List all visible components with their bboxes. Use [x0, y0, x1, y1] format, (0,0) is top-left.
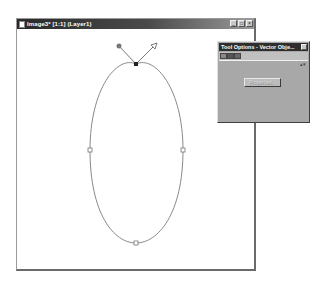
tool-options-close-button[interactable] — [301, 44, 307, 50]
node-bottom[interactable] — [134, 241, 138, 245]
maximize-button[interactable]: □ — [238, 20, 245, 27]
tool-options-palette: Tool Options - Vector Obje... ▴▾ Propert… — [217, 41, 310, 123]
control-handle-left[interactable] — [117, 44, 122, 49]
node-right[interactable] — [181, 148, 185, 152]
minimize-button[interactable]: _ — [230, 20, 237, 27]
image-window-title: Image3* [1:1] (Layer1) — [27, 21, 92, 27]
tool-options-titlebar[interactable]: Tool Options - Vector Obje... — [219, 43, 308, 51]
tab-grid-icon[interactable] — [220, 53, 227, 59]
selected-node-top[interactable] — [134, 62, 138, 66]
properties-button[interactable]: Properties... — [244, 78, 281, 87]
document-icon — [19, 21, 25, 28]
image-window-titlebar[interactable]: Image3* [1:1] (Layer1) _ □ × — [17, 19, 254, 29]
close-button[interactable]: × — [246, 20, 253, 27]
tab-pen-icon[interactable] — [234, 53, 241, 59]
tab-vector-icon[interactable] — [227, 53, 234, 59]
ellipse-path[interactable] — [90, 63, 183, 243]
tab-scroll-arrows-icon[interactable]: ▴▾ — [300, 63, 306, 69]
tool-options-tabs: ▴▾ — [219, 52, 308, 61]
node-left[interactable] — [88, 148, 92, 152]
tool-options-title: Tool Options - Vector Obje... — [221, 44, 295, 50]
handle-line-right — [136, 46, 154, 64]
handle-line-left — [119, 46, 136, 64]
